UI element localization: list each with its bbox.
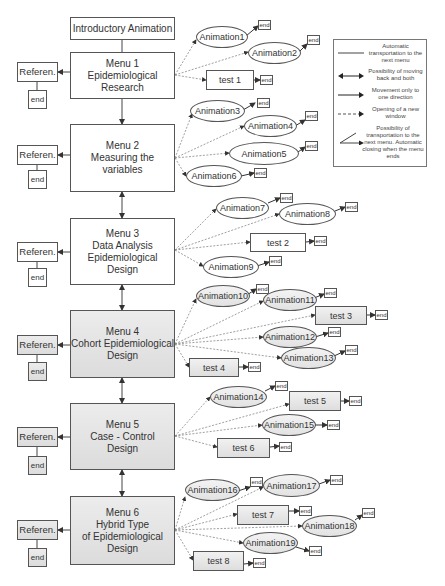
animation-2-end[interactable]: end xyxy=(307,35,320,45)
menu-1-ref-end-box[interactable]: end xyxy=(28,90,47,109)
animation-12-end[interactable]: end xyxy=(328,327,341,337)
animation-2-node[interactable]: Animation2 xyxy=(248,42,301,64)
menu-5-ref-end-box[interactable]: end xyxy=(28,456,47,475)
menu-6-references-button[interactable]: Referen. xyxy=(17,520,58,540)
animation-11-node[interactable]: Animation11 xyxy=(263,289,317,311)
test-5-end[interactable]: end xyxy=(349,396,362,406)
node-label: Animation9 xyxy=(208,262,253,272)
node-label: Animation17 xyxy=(266,481,316,491)
animation-10-node[interactable]: Animation10 xyxy=(196,285,250,307)
references-label: Referen. xyxy=(19,339,55,351)
menu-5-references-button[interactable]: Referen. xyxy=(17,427,58,447)
animation-3-end[interactable]: end xyxy=(257,98,270,108)
end-label: end xyxy=(31,460,44,472)
node-label: Animation7 xyxy=(220,203,265,213)
test-2-end[interactable]: end xyxy=(314,236,327,246)
animation-1-node[interactable]: Animation1 xyxy=(196,26,248,48)
menu-2-ref-end-box[interactable]: end xyxy=(28,170,47,189)
test-6-end[interactable]: end xyxy=(279,442,292,452)
test-6-node[interactable]: test 6 xyxy=(217,438,270,458)
end-label: end xyxy=(258,99,268,107)
menu-1-label: Menu 1 Epidemiological Research xyxy=(87,58,157,94)
animation-16-node[interactable]: Animation16 xyxy=(185,479,240,501)
animation-4-end[interactable]: end xyxy=(305,111,318,121)
angled-arrow-icon xyxy=(338,131,364,145)
end-label: end xyxy=(259,21,269,29)
menu-2-box[interactable]: Menu 2 Measuring the variables xyxy=(70,124,175,192)
animation-1-end[interactable]: end xyxy=(258,20,271,30)
menu-1-box[interactable]: Menu 1 Epidemiological Research xyxy=(70,52,175,99)
test-3-node[interactable]: test 3 xyxy=(315,306,367,325)
animation-12-node[interactable]: Animation12 xyxy=(263,326,317,348)
test-2-node[interactable]: test 2 xyxy=(250,233,306,252)
animation-14-node[interactable]: Animation14 xyxy=(210,386,267,408)
test-8-node[interactable]: test 8 xyxy=(193,551,244,571)
menu-6-ref-end-box[interactable]: end xyxy=(28,548,47,567)
end-label: end xyxy=(310,547,320,555)
test-3-end[interactable]: end xyxy=(375,310,388,320)
animation-11-end[interactable]: end xyxy=(324,288,337,298)
menu-1-references-button[interactable]: Referen. xyxy=(17,62,58,82)
node-label: test 2 xyxy=(267,238,289,248)
animation-8-end[interactable]: end xyxy=(345,202,358,212)
test-7-node[interactable]: test 7 xyxy=(237,505,289,525)
animation-6-node[interactable]: Animation6 xyxy=(186,165,242,187)
animation-3-node[interactable]: Animation3 xyxy=(190,100,245,122)
animation-5-end[interactable]: end xyxy=(305,141,318,151)
test-8-end[interactable]: end xyxy=(253,558,266,568)
legend-text: Possibility of transportation to the nex… xyxy=(362,125,424,160)
animation-15-node[interactable]: Animation15 xyxy=(262,414,316,436)
end-label: end xyxy=(350,397,360,405)
end-label: end xyxy=(300,507,310,515)
animation-9-end[interactable]: end xyxy=(269,256,282,266)
animation-7-end[interactable]: end xyxy=(280,193,293,203)
end-label: end xyxy=(276,382,286,390)
animation-19-node[interactable]: Animation19 xyxy=(243,532,298,554)
end-label: end xyxy=(249,363,259,371)
animation-17-node[interactable]: Animation17 xyxy=(263,474,320,497)
test-4-end[interactable]: end xyxy=(248,362,261,372)
animation-6-end[interactable]: end xyxy=(254,168,267,178)
animation-15-end[interactable]: end xyxy=(327,420,340,430)
end-label: end xyxy=(306,112,316,120)
animation-10-end[interactable]: end xyxy=(256,284,269,294)
menu-5-box[interactable]: Menu 5 Case - Control Design xyxy=(70,403,175,470)
test-4-node[interactable]: test 4 xyxy=(189,358,239,377)
animation-8-node[interactable]: Animation8 xyxy=(279,203,336,225)
menu-3-ref-end-box[interactable]: end xyxy=(28,268,47,287)
animation-13-end[interactable]: end xyxy=(345,345,358,355)
test-1-node[interactable]: test 1 xyxy=(206,70,254,90)
menu-6-box[interactable]: Menu 6 Hybrid Type of Epidemiological De… xyxy=(70,496,175,565)
menu-4-box[interactable]: Menu 4 Cohort Epidemiological Design xyxy=(70,310,175,378)
animation-5-node[interactable]: Animation5 xyxy=(229,142,299,165)
dashed-arrow-icon xyxy=(338,110,364,118)
legend-item-automatic: Automatic transportation to the next men… xyxy=(334,43,426,65)
intro-animation-box[interactable]: Introductory Animation xyxy=(70,17,175,40)
menu-4-references-button[interactable]: Referen. xyxy=(17,335,58,355)
double-arrow-icon xyxy=(338,72,364,80)
animation-7-node[interactable]: Animation7 xyxy=(216,197,269,219)
animation-16-end[interactable]: end xyxy=(250,477,263,487)
end-label: end xyxy=(331,476,341,484)
animation-13-node[interactable]: Animation13 xyxy=(281,347,336,369)
animation-19-end[interactable]: end xyxy=(309,546,322,556)
test-1-end[interactable]: end xyxy=(260,75,273,85)
menu-3-references-button[interactable]: Referen. xyxy=(17,242,58,262)
animation-14-end[interactable]: end xyxy=(275,381,288,391)
intro-animation-label: Introductory Animation xyxy=(73,23,173,35)
end-label: end xyxy=(306,142,316,150)
animation-9-node[interactable]: Animation9 xyxy=(203,256,259,278)
end-label: end xyxy=(376,311,386,319)
menu-4-ref-end-box[interactable]: end xyxy=(28,362,47,381)
end-label: end xyxy=(346,346,356,354)
test-5-node[interactable]: test 5 xyxy=(289,391,341,411)
animation-18-end[interactable]: end xyxy=(362,508,375,518)
animation-18-node[interactable]: Animation18 xyxy=(302,515,357,537)
node-label: Animation1 xyxy=(199,32,244,42)
animation-4-node[interactable]: Animation4 xyxy=(244,115,297,137)
test-7-end[interactable]: end xyxy=(299,506,312,516)
animation-17-end[interactable]: end xyxy=(330,475,343,485)
menu-2-references-button[interactable]: Referen. xyxy=(17,145,58,165)
menu-3-box[interactable]: Menu 3 Data Analysis Epidemiological Des… xyxy=(70,218,175,285)
end-label: end xyxy=(255,169,265,177)
